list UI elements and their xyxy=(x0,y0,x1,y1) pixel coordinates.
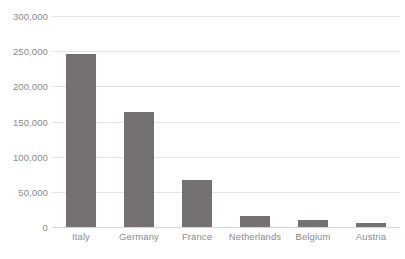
bar-germany[interactable] xyxy=(124,112,154,227)
bar-belgium[interactable] xyxy=(298,220,328,227)
bar-series xyxy=(52,16,400,227)
x-axis-label-belgium: Belgium xyxy=(295,231,330,242)
x-axis-label-france: France xyxy=(182,231,212,242)
y-axis-labels: 050,000100,000150,000200,000250,000300,0… xyxy=(0,0,48,259)
bar-chart: 050,000100,000150,000200,000250,000300,0… xyxy=(0,0,405,259)
bar-france[interactable] xyxy=(182,180,212,227)
y-axis-tick-label: 200,000 xyxy=(0,81,48,92)
x-axis-label-netherlands: Netherlands xyxy=(229,231,281,242)
bar-netherlands[interactable] xyxy=(240,216,270,227)
x-axis-label-austria: Austria xyxy=(356,231,386,242)
y-axis-tick-label: 300,000 xyxy=(0,11,48,22)
x-axis-labels: ItalyGermanyFranceNetherlandsBelgiumAust… xyxy=(52,231,400,251)
x-axis-label-italy: Italy xyxy=(72,231,90,242)
x-axis-label-germany: Germany xyxy=(119,231,159,242)
bar-austria[interactable] xyxy=(356,223,386,227)
y-axis-tick-label: 250,000 xyxy=(0,46,48,57)
y-axis-tick-label: 100,000 xyxy=(0,151,48,162)
gridline-0 xyxy=(52,227,400,228)
y-axis-tick-label: 50,000 xyxy=(0,186,48,197)
y-axis-tick-label: 150,000 xyxy=(0,116,48,127)
bar-italy[interactable] xyxy=(66,54,96,227)
y-axis-tick-label: 0 xyxy=(0,222,48,233)
